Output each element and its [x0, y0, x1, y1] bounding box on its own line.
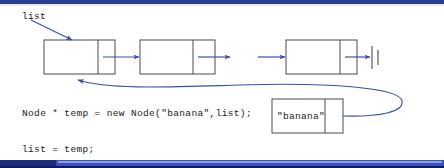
- bottom-accent-bar-highlight: [58, 161, 442, 163]
- null-terminator-icon: [372, 46, 378, 69]
- list-pointer-label: list: [22, 11, 46, 22]
- linked-list-diagram: [0, 0, 444, 168]
- bottom-edge-rule: [0, 166, 444, 168]
- code-line-new-node: Node * temp = new Node("banana",list);: [22, 108, 252, 119]
- slide-canvas: list "banana" Node * temp = new Node("ba…: [0, 0, 444, 168]
- list-label-arrow: [31, 20, 72, 40]
- banana-value-label: "banana": [277, 111, 325, 122]
- code-line-list-assign: list = temp;: [22, 144, 95, 155]
